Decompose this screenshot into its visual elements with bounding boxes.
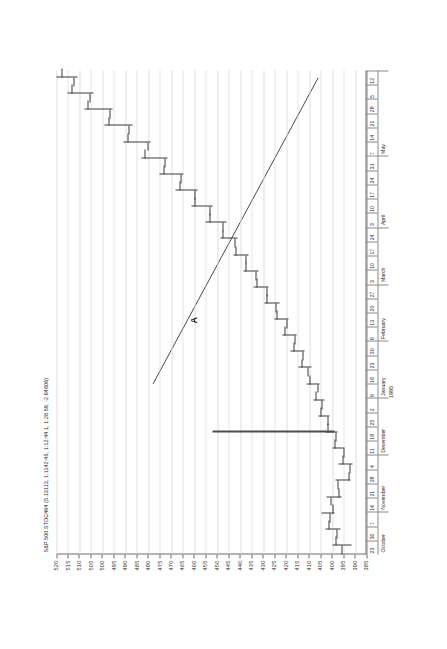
date-axis-label: 30 bbox=[369, 533, 374, 539]
gridline bbox=[344, 71, 345, 554]
tick-mark bbox=[159, 555, 160, 559]
ohlc-open-tick bbox=[327, 416, 328, 425]
price-axis-label: 440 bbox=[237, 561, 243, 571]
date-axis-label: 17 bbox=[369, 249, 374, 255]
ohlc-bar bbox=[325, 528, 340, 529]
date-axis-cell: 23 bbox=[367, 540, 378, 554]
date-axis-cell: 17 bbox=[367, 184, 378, 198]
date-axis-label: 10 bbox=[369, 263, 374, 269]
price-axis-label: 470 bbox=[169, 561, 175, 571]
ohlc-close-tick bbox=[71, 85, 72, 94]
ohlc-open-tick bbox=[308, 368, 309, 377]
gridline bbox=[79, 71, 80, 554]
ohlc-close-tick bbox=[61, 69, 62, 78]
date-axis-label: 7 bbox=[369, 522, 374, 525]
gridline bbox=[355, 71, 356, 554]
price-axis-label: 435 bbox=[249, 561, 255, 571]
date-axis: 2330714212841118252916233061320273101724… bbox=[367, 71, 401, 555]
date-axis-label: 5 bbox=[369, 95, 374, 98]
price-axis-label: 430 bbox=[260, 561, 266, 571]
date-axis-cell: 27 bbox=[367, 284, 378, 298]
ohlc-open-tick bbox=[317, 384, 318, 393]
date-axis-cell: 24 bbox=[367, 170, 378, 184]
tick-mark bbox=[205, 555, 206, 559]
date-axis-cell: 21 bbox=[367, 113, 378, 127]
price-axis-label: 445 bbox=[226, 561, 232, 571]
date-axis-cell: 14 bbox=[367, 127, 378, 141]
price-axis-label: 520 bbox=[54, 561, 60, 571]
tick-mark bbox=[343, 555, 344, 559]
tick-mark bbox=[56, 555, 57, 559]
month-axis-cell: October bbox=[378, 512, 389, 555]
tick-mark bbox=[263, 555, 264, 559]
ohlc-open-tick bbox=[294, 336, 295, 345]
gridline bbox=[286, 71, 287, 554]
date-axis-label: 10 bbox=[369, 206, 374, 212]
gridline bbox=[183, 71, 184, 554]
date-axis-label: 7 bbox=[369, 152, 374, 155]
month-axis-cell: May bbox=[378, 71, 389, 156]
tick-mark bbox=[148, 555, 149, 559]
ohlc-open-tick bbox=[341, 545, 342, 554]
month-axis-label: January bbox=[380, 377, 385, 395]
month-axis-label: December bbox=[380, 429, 385, 453]
date-axis-label: 4 bbox=[369, 465, 374, 468]
price-axis-label: 390 bbox=[352, 561, 358, 571]
gridline bbox=[309, 71, 310, 554]
tick-mark bbox=[194, 555, 195, 559]
month-axis-cell: December bbox=[378, 398, 389, 455]
ohlc-open-tick bbox=[344, 449, 345, 458]
date-axis-label: 31 bbox=[369, 163, 374, 169]
chart-figure: S&P 500 STOC464 (5.13113, 1:1142:45, 1:1… bbox=[35, 42, 413, 607]
date-axis-cell: 20 bbox=[367, 298, 378, 312]
date-axis-cell: 3 bbox=[367, 213, 378, 227]
figure-page: S&P 500 STOC464 (5.13113, 1:1142:45, 1:1… bbox=[0, 0, 447, 649]
date-axis-cell: 18 bbox=[367, 426, 378, 440]
ohlc-close-tick bbox=[332, 504, 333, 513]
ohlc-open-tick bbox=[164, 158, 165, 167]
month-axis-label: May bbox=[380, 144, 385, 154]
date-axis-cell: 10 bbox=[367, 256, 378, 270]
price-axis: 5205155105055004954904854804754704654604… bbox=[57, 555, 367, 607]
gridline bbox=[321, 71, 322, 554]
date-axis-label: 21 bbox=[369, 121, 374, 127]
ohlc-close-tick bbox=[88, 101, 89, 110]
date-axis-cell: 30 bbox=[367, 341, 378, 355]
date-axis-label: 6 bbox=[369, 337, 374, 340]
month-axis-cell: November bbox=[378, 455, 389, 512]
date-axis-label: 11 bbox=[369, 448, 374, 453]
date-axis-label: 21 bbox=[369, 491, 374, 497]
chart-title: S&P 500 STOC464 (5.13113, 1:1142:45, 1:1… bbox=[43, 378, 49, 553]
date-axis-label: 28 bbox=[369, 106, 374, 112]
tick-mark bbox=[217, 555, 218, 559]
date-axis-label: 24 bbox=[369, 235, 374, 241]
ohlc-open-tick bbox=[338, 481, 339, 490]
date-axis-cell: 7 bbox=[367, 142, 378, 156]
date-axis-label: 17 bbox=[369, 192, 374, 198]
date-axis-cell: 3 bbox=[367, 270, 378, 284]
ohlc-close-tick bbox=[309, 375, 310, 384]
date-axis-cell: 24 bbox=[367, 227, 378, 241]
gridline bbox=[57, 71, 58, 554]
ohlc-open-tick bbox=[246, 255, 247, 264]
date-axis-cell: 23 bbox=[367, 355, 378, 369]
date-axis-label: 24 bbox=[369, 178, 374, 184]
date-axis-cell: 2 bbox=[367, 398, 378, 412]
date-axis-cell: 13 bbox=[367, 313, 378, 327]
date-axis-cell: 17 bbox=[367, 241, 378, 255]
month-axis-cell: April bbox=[378, 156, 389, 227]
vertical-marker-line bbox=[213, 431, 335, 433]
ohlc-close-tick bbox=[256, 278, 257, 287]
tick-mark bbox=[366, 555, 367, 559]
price-axis-label: 465 bbox=[180, 561, 186, 571]
gridline bbox=[171, 71, 172, 554]
tick-mark bbox=[309, 555, 310, 559]
date-axis-label: 14 bbox=[369, 135, 374, 141]
date-axis-label: 2 bbox=[369, 408, 374, 411]
ohlc-open-tick bbox=[74, 78, 75, 87]
gridline bbox=[194, 71, 195, 554]
tick-mark bbox=[182, 555, 183, 559]
gridline bbox=[217, 71, 218, 554]
price-axis-label: 495 bbox=[111, 561, 117, 571]
date-axis-cell: 25 bbox=[367, 412, 378, 426]
